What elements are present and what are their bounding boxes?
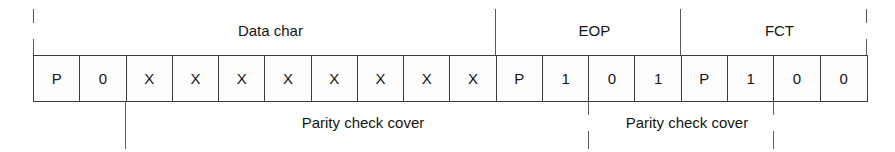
span-label: EOP (496, 23, 693, 39)
bit-cell: 1 (635, 56, 681, 101)
span-label: Parity check cover (588, 115, 785, 131)
bit-cell: X (404, 56, 450, 101)
bit-cell: X (265, 56, 311, 101)
bit-cell: 1 (728, 56, 774, 101)
bit-cell: 0 (589, 56, 635, 101)
bit-cell: X (358, 56, 404, 101)
spacewire-character-format-diagram: Data charEOPFCT P0XXXXXXXXP101P100 Parit… (0, 0, 895, 152)
span-label: Data char (33, 23, 508, 39)
span-label: FCT (681, 23, 878, 39)
bit-cell: 0 (821, 56, 867, 101)
bit-cell: 1 (543, 56, 589, 101)
bit-cell-row: P0XXXXXXXXP101P100 (33, 55, 868, 102)
bit-cell: X (312, 56, 358, 101)
bit-cell: X (219, 56, 265, 101)
span-label: Parity check cover (126, 115, 601, 131)
bit-cell: P (682, 56, 728, 101)
bit-cell: X (450, 56, 496, 101)
bit-cell: 0 (774, 56, 820, 101)
bit-cell: P (34, 56, 80, 101)
bit-cell: 0 (80, 56, 126, 101)
bit-cell: P (497, 56, 543, 101)
bit-cell: X (173, 56, 219, 101)
bit-cell: X (127, 56, 173, 101)
